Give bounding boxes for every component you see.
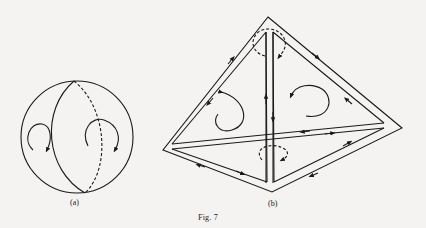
meridian-front bbox=[51, 81, 85, 193]
panel-a-label: (a) bbox=[70, 198, 79, 207]
left-face-rotation-arrow-icon bbox=[216, 92, 244, 131]
sphere-panel bbox=[21, 81, 133, 193]
panel-b-label: (b) bbox=[268, 199, 277, 208]
arrow-bottom-right-outer-down-icon bbox=[311, 173, 318, 176]
arrow-inner-right-up-icon bbox=[346, 99, 352, 104]
arrow-outer-right-down-icon bbox=[312, 53, 318, 58]
tetrahedron-panel bbox=[163, 17, 402, 192]
edge-middle-upper bbox=[172, 123, 384, 144]
back-face-top-rotation-arrow-icon bbox=[253, 29, 285, 57]
figure-caption: Fig. 7 bbox=[198, 213, 218, 222]
edge-bottom-left-inner bbox=[172, 149, 267, 182]
figure-svg bbox=[0, 0, 426, 228]
left-rotation-arrow-icon bbox=[28, 124, 51, 150]
right-face-rotation-arrow-icon bbox=[291, 85, 329, 116]
meridian-back bbox=[74, 81, 102, 193]
edge-middle-lower bbox=[172, 128, 384, 149]
arrow-bottom-inner-right-icon bbox=[236, 171, 243, 174]
edge-bottom-right-inner bbox=[274, 128, 384, 182]
arrow-middle-right-icon bbox=[325, 133, 333, 134]
sphere-outline bbox=[21, 81, 133, 193]
